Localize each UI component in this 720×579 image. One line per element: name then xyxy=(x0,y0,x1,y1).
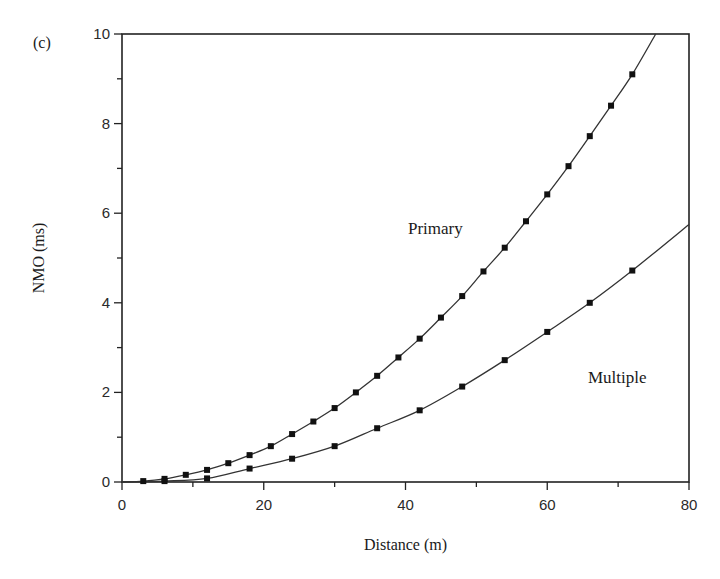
data-marker-multiple xyxy=(544,329,550,335)
data-marker-multiple xyxy=(459,384,465,390)
data-marker-primary xyxy=(183,472,189,478)
series-label-primary: Primary xyxy=(408,219,463,239)
nmo-chart: 0204060800246810 xyxy=(0,0,720,579)
data-marker-primary xyxy=(502,245,508,251)
plot-curves xyxy=(122,34,689,482)
data-marker-primary xyxy=(417,336,423,342)
x-tick-label: 40 xyxy=(397,496,414,513)
plot-frame xyxy=(122,34,689,482)
panel-label: (c) xyxy=(33,34,51,52)
y-axis-title: NMO (ms) xyxy=(30,223,48,294)
plot-axes: 0204060800246810 xyxy=(93,25,697,513)
y-tick-label: 6 xyxy=(102,204,110,221)
y-tick-label: 0 xyxy=(102,473,110,490)
data-marker-multiple xyxy=(247,466,253,472)
data-marker-primary xyxy=(332,405,338,411)
data-marker-primary xyxy=(268,443,274,449)
y-tick-label: 10 xyxy=(93,25,110,42)
data-marker-primary xyxy=(353,389,359,395)
x-tick-label: 0 xyxy=(118,496,126,513)
data-marker-primary xyxy=(247,452,253,458)
x-tick-label: 60 xyxy=(539,496,556,513)
data-marker-primary xyxy=(225,460,231,466)
data-marker-primary xyxy=(140,478,146,484)
data-marker-primary xyxy=(544,191,550,197)
series-label-multiple: Multiple xyxy=(588,368,647,388)
data-marker-primary xyxy=(438,315,444,321)
data-marker-primary xyxy=(587,133,593,139)
data-marker-primary xyxy=(608,103,614,109)
data-marker-primary xyxy=(204,467,210,473)
data-marker-multiple xyxy=(374,425,380,431)
data-marker-multiple xyxy=(162,478,168,484)
data-marker-primary xyxy=(480,268,486,274)
data-marker-primary xyxy=(629,71,635,77)
data-marker-primary xyxy=(374,373,380,379)
data-marker-multiple xyxy=(502,357,508,363)
data-marker-primary xyxy=(289,431,295,437)
data-marker-primary xyxy=(395,354,401,360)
y-tick-label: 4 xyxy=(102,294,110,311)
data-marker-primary xyxy=(310,419,316,425)
plot-markers xyxy=(140,71,635,484)
data-marker-multiple xyxy=(204,475,210,481)
data-marker-multiple xyxy=(587,300,593,306)
data-marker-primary xyxy=(523,218,529,224)
data-marker-primary xyxy=(459,293,465,299)
series-line-primary xyxy=(122,34,656,482)
data-marker-primary xyxy=(566,163,572,169)
x-tick-label: 80 xyxy=(681,496,698,513)
series-line-multiple xyxy=(122,224,689,482)
data-marker-multiple xyxy=(289,456,295,462)
data-marker-multiple xyxy=(629,268,635,274)
y-tick-label: 8 xyxy=(102,115,110,132)
data-marker-multiple xyxy=(417,407,423,413)
x-tick-label: 20 xyxy=(255,496,272,513)
data-marker-multiple xyxy=(332,443,338,449)
y-tick-label: 2 xyxy=(102,383,110,400)
x-axis-title: Distance (m) xyxy=(0,536,720,554)
